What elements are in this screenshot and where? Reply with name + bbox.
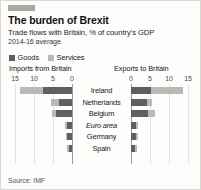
chart-row: Spain [1,143,201,155]
chart-title: The burden of Brexit [8,14,194,26]
axis-ticks-exports: 051015 [1,75,201,84]
chart-legend: Goods Services [9,53,84,62]
bar-exports-netherlands [131,99,152,106]
legend-item-services: Services [48,53,84,62]
bar-segment-services [148,110,154,117]
chart-plot-area: Imports from Britain Exports to Britain … [1,64,201,168]
chart-period-note: 2014-16 average [8,38,61,46]
chart-row: Belgium [1,108,201,120]
bar-exports-ireland [131,87,183,94]
bar-imports-belgium [52,110,72,117]
chart-row: Euro area [1,120,201,132]
category-label-euro-area: Euro area [1,120,201,132]
category-label-netherlands: Netherlands [1,97,201,109]
bar-segment-goods [59,99,72,106]
bar-imports-ireland [20,87,72,94]
category-label-spain: Spain [1,143,201,155]
bar-segment-goods [67,133,72,140]
axis-tick-exports-5: 5 [148,75,152,82]
bar-segment-goods [131,99,147,106]
bar-segment-services [20,87,44,94]
bar-segment-services [136,133,138,140]
chart-rows: IrelandNetherlandsBelgiumEuro areaGerman… [1,85,201,155]
panel-title-imports: Imports from Britain [9,64,71,73]
bar-exports-germany [131,133,138,140]
category-label-belgium: Belgium [1,108,201,120]
bar-exports-belgium [131,110,155,117]
accent-bar [8,5,35,11]
bar-segment-services [136,122,138,129]
category-label-germany: Germany [1,131,201,143]
bar-segment-services [151,87,183,94]
bar-segment-goods [131,110,148,117]
chart-row: Germany [1,131,201,143]
chart-row: Ireland [1,85,201,97]
legend-item-goods: Goods [9,53,39,62]
chart-subtitle: Trade flows with Britain, % of country's… [8,28,196,37]
legend-label-services: Services [57,53,85,62]
bar-imports-germany [66,133,72,140]
bar-segment-goods [56,110,72,117]
bar-imports-spain [67,145,72,152]
legend-swatch-services [48,55,54,61]
bar-segment-services [135,145,137,152]
chart-row: Netherlands [1,97,201,109]
bar-exports-spain [131,145,137,152]
chart-source: Source: IMF [8,177,45,184]
legend-label-goods: Goods [18,53,40,62]
bar-segment-services [51,99,58,106]
bar-segment-goods [69,145,72,152]
bar-segment-goods [67,122,72,129]
panel-title-exports: Exports to Britain [114,64,168,73]
chart-card: The burden of Brexit Trade flows with Br… [0,0,201,190]
bar-imports-netherlands [51,99,72,106]
bar-segment-goods [131,87,151,94]
bar-imports-euro-area [65,122,72,129]
legend-swatch-goods [9,55,15,61]
bar-segment-services [147,99,152,106]
bar-exports-euro-area [131,122,138,129]
axis-tick-exports-15: 15 [184,75,192,82]
axis-tick-exports-10: 10 [165,75,173,82]
bar-segment-goods [43,87,72,94]
axis-tick-exports-0: 0 [129,75,133,82]
